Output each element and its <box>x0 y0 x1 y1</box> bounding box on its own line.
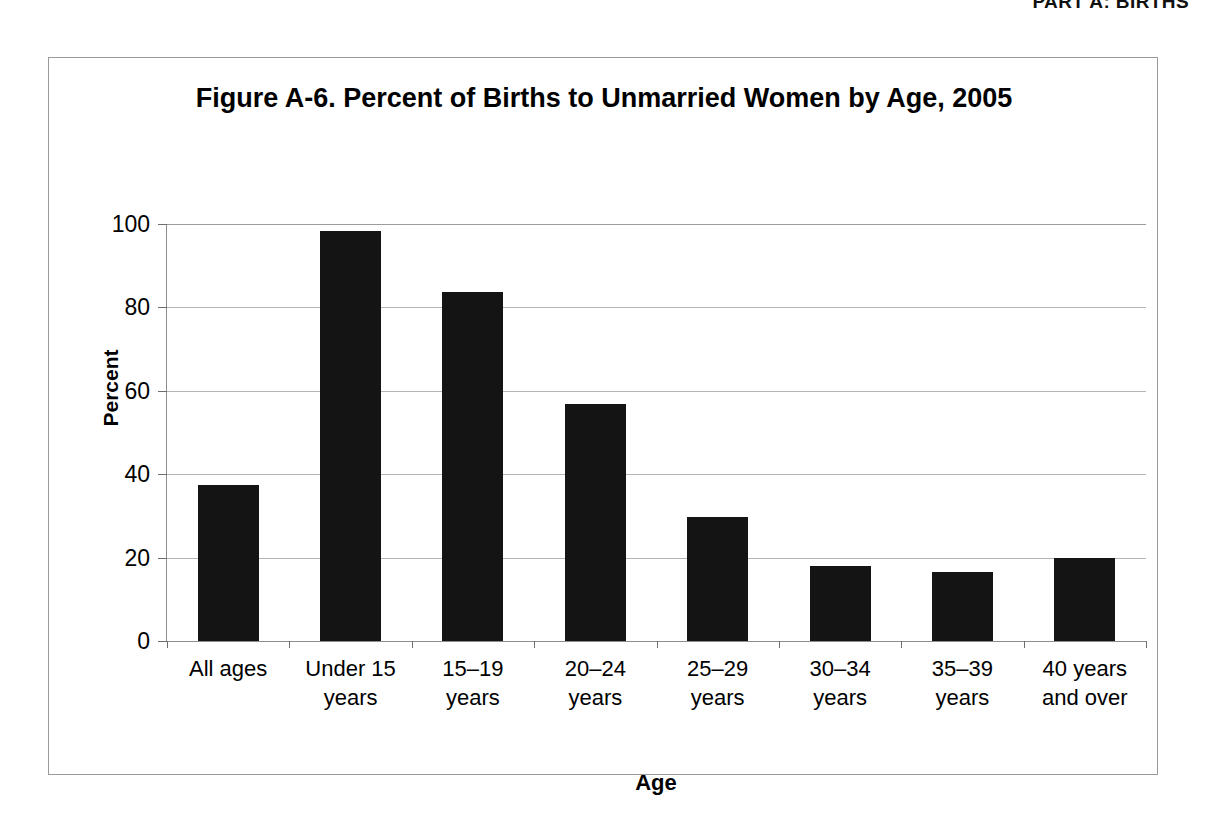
bar <box>320 231 381 641</box>
running-page-header: PART A: BIRTHS <box>1032 0 1189 13</box>
x-tick-mark <box>1146 641 1147 648</box>
x-tick-mark <box>167 641 168 648</box>
bar <box>1054 558 1115 641</box>
y-tick-label: 100 <box>112 211 150 238</box>
x-axis-title: Age <box>166 770 1146 796</box>
x-tick-label: 40 years and over <box>1010 655 1160 712</box>
y-tick-label: 40 <box>124 461 150 488</box>
bar <box>810 566 871 641</box>
bar <box>932 572 993 641</box>
y-tick-mark <box>158 558 167 559</box>
y-tick-label: 20 <box>124 544 150 571</box>
y-tick-label: 60 <box>124 377 150 404</box>
y-tick-mark <box>158 307 167 308</box>
bar <box>198 485 259 641</box>
y-tick-mark <box>158 224 167 225</box>
x-tick-mark <box>1024 641 1025 648</box>
y-tick-mark <box>158 641 167 642</box>
chart-title: Figure A-6. Percent of Births to Unmarri… <box>119 80 1089 117</box>
x-tick-mark <box>657 641 658 648</box>
bar <box>565 404 626 641</box>
y-tick-mark <box>158 391 167 392</box>
y-tick-mark <box>158 474 167 475</box>
x-tick-mark <box>534 641 535 648</box>
x-tick-mark <box>779 641 780 648</box>
x-tick-mark <box>901 641 902 648</box>
x-tick-mark <box>289 641 290 648</box>
bars-layer <box>167 224 1146 641</box>
figure-frame: Figure A-6. Percent of Births to Unmarri… <box>48 57 1158 775</box>
y-tick-label: 0 <box>137 628 150 655</box>
bar <box>687 517 748 641</box>
bar <box>442 292 503 641</box>
y-axis-title: Percent <box>99 318 123 458</box>
plot-area: 100806040200 All agesUnder 15 years15–19… <box>166 224 1146 642</box>
y-tick-label: 80 <box>124 294 150 321</box>
x-tick-mark <box>412 641 413 648</box>
